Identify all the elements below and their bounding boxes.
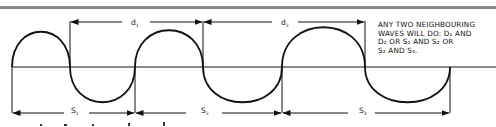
svg-text:S2: S2 (201, 106, 209, 116)
s2-subscript: 2 (206, 111, 209, 116)
top-rule (0, 6, 496, 9)
cutoff-text-fragments (40, 122, 165, 126)
d2-subscript: 2 (286, 23, 289, 28)
note-line-4: S₂ AND S₃. (378, 47, 496, 56)
s1-subscript: 1 (76, 111, 79, 116)
s3-dimension: S3 (283, 106, 449, 116)
d1-dimension: d1 (71, 18, 202, 28)
d1-subscript: 1 (136, 23, 139, 28)
svg-text:S1: S1 (71, 106, 79, 116)
svg-text:d2: d2 (281, 18, 289, 28)
s2-dimension: S2 (136, 106, 281, 116)
svg-text:d1: d1 (131, 18, 139, 28)
svg-text:S3: S3 (359, 106, 367, 116)
s1-dimension: S1 (13, 106, 134, 116)
s3-subscript: 3 (364, 111, 367, 116)
d2-dimension: d2 (204, 18, 364, 28)
explanatory-note: ANY TWO NEIGHBOURING WAVES WILL DO: d₁ A… (378, 21, 496, 55)
